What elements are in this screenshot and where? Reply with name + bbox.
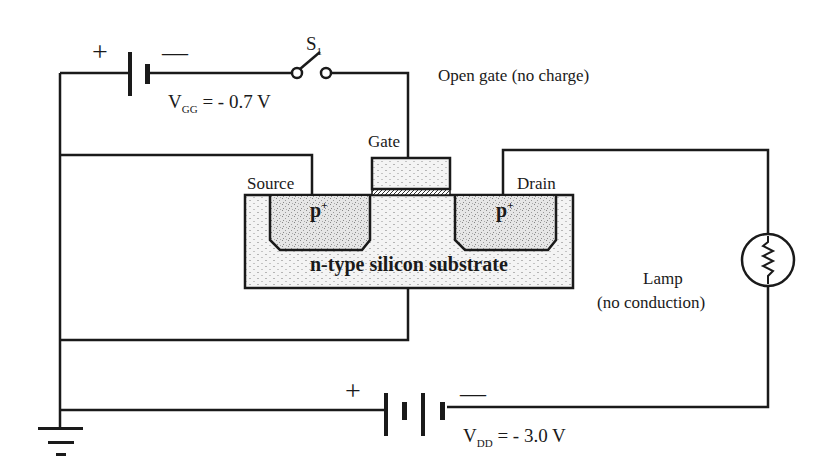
- drain-battery-minus: —: [460, 381, 486, 407]
- lamp-icon: [742, 234, 794, 286]
- gate-battery-minus: —: [162, 40, 188, 66]
- lamp-status-label: (no conduction): [597, 294, 705, 311]
- drain-p-plus-label: p+: [496, 200, 513, 220]
- circuit-diagram: [0, 0, 823, 473]
- lamp-label: Lamp: [643, 270, 683, 287]
- gate-electrode: [372, 158, 450, 189]
- ground-icon: [38, 427, 83, 456]
- gate-label: Gate: [368, 133, 400, 150]
- switch-label: S1: [306, 34, 322, 57]
- gate-battery-icon: [128, 52, 150, 96]
- substrate-label: n-type silicon substrate: [310, 254, 508, 274]
- source-label: Source: [247, 175, 294, 192]
- vgg-label: VGG = - 0.7 V: [168, 92, 271, 115]
- drain-battery-icon: [384, 393, 445, 436]
- drain-label: Drain: [517, 175, 556, 192]
- substrate-wire: [60, 288, 408, 340]
- drain-battery-plus: +: [345, 377, 361, 405]
- gate-status-label: Open gate (no charge): [438, 67, 589, 84]
- source-p-plus-label: p+: [310, 200, 327, 220]
- gate-battery-plus: +: [92, 38, 108, 66]
- vdd-label: VDD = - 3.0 V: [463, 426, 566, 449]
